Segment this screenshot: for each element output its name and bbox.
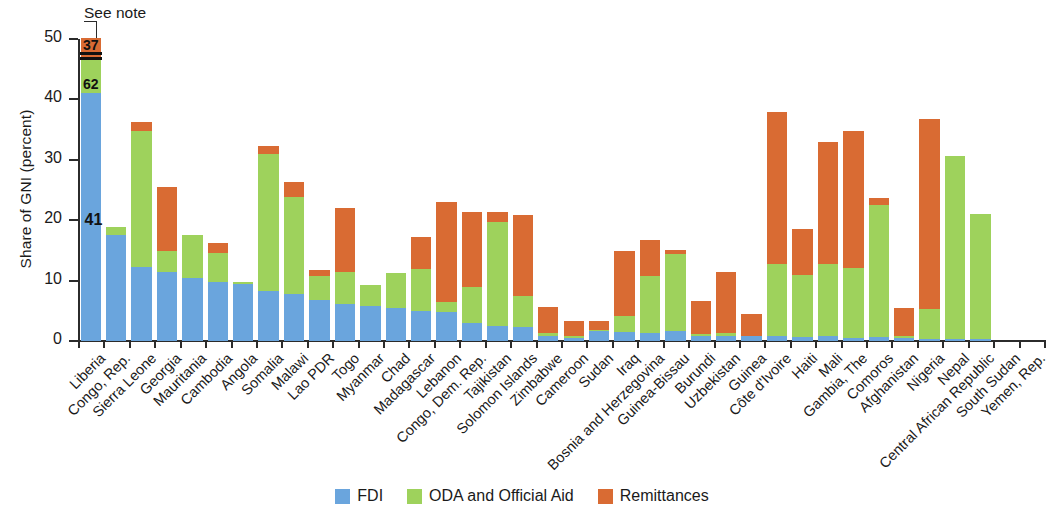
bar-segment-fdi	[614, 332, 634, 341]
bar-mali	[818, 142, 838, 341]
x-tick-mark	[383, 340, 385, 348]
bar-segment-fdi	[106, 235, 126, 341]
see-note-annotation: See note	[84, 4, 146, 22]
bar-segment-oda	[792, 275, 812, 337]
bar-burundi	[691, 301, 711, 341]
bar-segment-fdi	[208, 282, 228, 341]
bar-georgia	[157, 187, 177, 341]
bar-segment-oda	[436, 302, 456, 312]
bar-gambia-the	[843, 131, 863, 341]
bar-segment-fdi	[233, 284, 253, 341]
bar-segment-fdi	[869, 337, 889, 341]
bar-central-african-republic	[970, 214, 990, 341]
bar-iraq	[614, 251, 634, 341]
x-tick-mark	[78, 340, 80, 348]
bar-segment-oda	[131, 131, 151, 267]
bar-segment-remittances	[335, 208, 355, 272]
bar-chad	[386, 273, 406, 341]
bar-segment-remittances	[843, 131, 863, 268]
bar-segment-fdi	[386, 308, 406, 341]
x-tick-mark	[205, 340, 207, 348]
x-axis-label: Haiti	[788, 350, 820, 382]
bar-sudan	[589, 321, 609, 341]
bar-segment-oda	[360, 285, 380, 306]
legend-label: ODA and Official Aid	[429, 487, 574, 505]
x-tick-mark	[790, 340, 792, 348]
bar-segment-remittances	[665, 250, 685, 254]
bar-malawi	[284, 182, 304, 341]
x-tick-mark	[942, 340, 944, 348]
bar-segment-remittances	[513, 215, 533, 296]
y-tick-mark	[69, 280, 78, 282]
x-tick-mark	[891, 340, 893, 348]
bar-segment-remittances	[894, 308, 914, 336]
bar-segment-remittances	[462, 212, 482, 287]
bar-cambodia	[208, 243, 228, 341]
y-tick-label: 50	[22, 28, 62, 46]
bar-segment-fdi	[691, 336, 711, 341]
bar-madagascar	[411, 237, 431, 341]
bar-segment-remittances	[309, 270, 329, 276]
bar-segment-fdi	[640, 333, 660, 341]
x-tick-mark	[434, 340, 436, 348]
bar-solomon-islands	[513, 215, 533, 341]
bar-segment-oda	[309, 276, 329, 300]
bar-segment-oda	[818, 264, 838, 335]
bar-segment-remittances	[131, 122, 151, 130]
x-axis-label-group: LiberiaCongo, Rep.Sierra LeoneGeorgiaMau…	[78, 350, 1044, 470]
bar-segment-fdi	[182, 278, 202, 341]
bar-segment-oda	[157, 251, 177, 272]
x-tick-mark	[103, 340, 105, 348]
bar-segment-remittances	[614, 251, 634, 316]
x-tick-mark	[764, 340, 766, 348]
x-tick-mark	[917, 340, 919, 348]
y-axis-title: Share of GNI (percent)	[17, 79, 35, 299]
x-tick-mark	[281, 340, 283, 348]
liberia-fdi-value-label: 41	[85, 211, 103, 229]
bar-tajikistan	[487, 212, 507, 341]
bar-segment-oda	[716, 333, 736, 337]
bar-segment-fdi	[818, 336, 838, 341]
bar-segment-oda	[386, 273, 406, 307]
bar-segment-oda	[640, 276, 660, 332]
x-tick-mark	[739, 340, 741, 348]
bar-segment-oda	[233, 282, 253, 284]
x-tick-mark	[485, 340, 487, 348]
bar-segment-oda	[919, 309, 939, 339]
bar-segment-oda	[843, 268, 863, 338]
bar-segment-remittances	[258, 146, 278, 154]
legend-item: FDI	[335, 487, 383, 505]
bar-segment-fdi	[919, 339, 939, 341]
bar-segment-oda	[538, 333, 558, 336]
bar-liberia: 6237	[81, 38, 101, 341]
x-tick-mark	[332, 340, 334, 348]
bar-segment-oda	[411, 269, 431, 311]
bar-segment-remittances	[640, 240, 660, 277]
bar-segment-remittances	[792, 229, 812, 275]
x-tick-mark	[1019, 340, 1021, 348]
bar-segment-fdi	[894, 338, 914, 341]
x-tick-mark	[536, 340, 538, 348]
legend-label: Remittances	[620, 487, 709, 505]
bar-segment-oda	[258, 154, 278, 291]
y-tick-label: 40	[22, 88, 62, 106]
bar-segment-oda	[869, 205, 889, 338]
bar-segment-fdi	[665, 331, 685, 341]
bar-segment-oda	[513, 296, 533, 327]
bar-segment-oda	[691, 334, 711, 336]
x-tick-mark	[866, 340, 868, 348]
bar-segment-fdi	[564, 338, 584, 341]
x-tick-mark	[180, 340, 182, 348]
bar-segment-remittances	[411, 237, 431, 270]
bar-segment-remittances	[589, 321, 609, 329]
y-tick-mark	[69, 219, 78, 221]
bar-segment-oda	[487, 222, 507, 326]
axis-break-mark	[80, 57, 102, 60]
bar-segment-oda	[970, 214, 990, 339]
x-tick-mark	[612, 340, 614, 348]
bar-segment-oda	[284, 197, 304, 294]
bar-segment-fdi	[970, 339, 990, 341]
x-tick-mark	[688, 340, 690, 348]
bar-segment-remittances	[716, 272, 736, 332]
bar-segment-fdi	[284, 294, 304, 341]
